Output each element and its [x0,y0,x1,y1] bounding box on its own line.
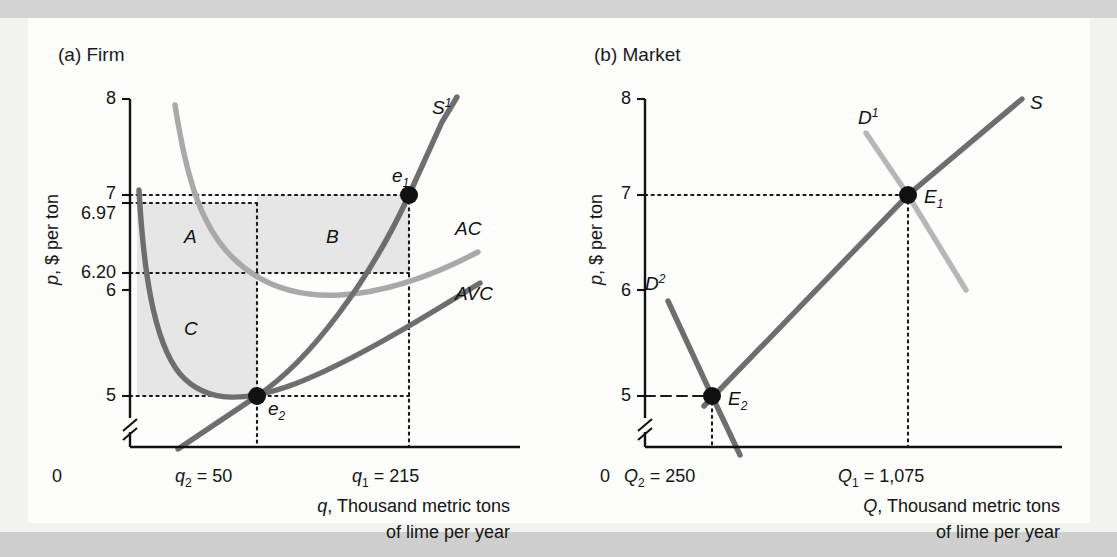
panel-b-xtick-Q1-sub: 1 [852,476,859,490]
panel-a-xtick-q2-rest: = 50 [192,466,233,486]
panel-a-ytick-7: 7 [70,183,116,204]
curve-label-D1: D1 [858,106,878,129]
panel-b-xtick-Q1-var: Q [838,466,852,486]
point-label-E1: E1 [924,186,943,211]
panel-b-x-axis-line2: of lime per year [936,522,1060,542]
panel-b-ytick-6: 6 [585,280,631,301]
point-label-e2: e2 [268,398,285,423]
region-C-label: C [184,318,198,340]
panel-b-xtick-Q2-var: Q [624,466,638,486]
panel-b-xtick-Q2: Q2 = 250 [624,466,695,490]
point-label-e1-var: e [392,165,403,186]
curve-label-S1-sup: 1 [445,96,452,110]
point-label-E2-sub: 2 [741,399,748,413]
panel-b-origin-label: 0 [600,466,610,487]
panel-a-x-axis-var: q [317,496,327,516]
figure-root: (a) Firm p, $ per ton 8 7 6.97 6.20 6 5 … [0,0,1117,557]
region-A-label: A [184,226,197,248]
panel-b-axes [637,99,1062,447]
curve-label-D1-sup: 1 [872,106,879,120]
panel-b-x-axis-var: Q [863,496,877,516]
panel-b-y-axis-label: p, $ per ton [586,194,607,285]
region-B-label: B [326,226,339,248]
point-label-e2-sub: 2 [279,409,286,423]
panel-a-ytick-6: 6 [70,280,116,301]
panel-a-xtick-q2-var: q [175,466,185,486]
point-label-e1: e1 [392,165,409,190]
curve-label-S1: S1 [432,96,451,119]
panel-a-title: (a) Firm [58,44,124,66]
panel-a-x-axis-line2: of lime per year [386,522,510,542]
panel-b-ytick-7: 7 [585,183,631,204]
curve-S [704,99,1022,406]
point-label-E2: E2 [728,388,747,413]
point-label-e2-var: e [268,398,279,419]
point-e2 [248,387,266,405]
curve-label-AC: AC [455,218,481,240]
panel-b-x-axis-line1: , Thousand metric tons [877,496,1060,516]
panel-a-x-axis-title: q, Thousand metric tons of lime per year [240,493,510,545]
panel-b-xtick-Q1-rest: = 1,075 [859,466,925,486]
point-E1 [899,186,917,204]
panel-a-xtick-q1: q1 = 215 [352,466,419,490]
panel-b-y-axis-rest: , $ per ton [586,194,606,275]
panel-a-origin-label: 0 [52,466,62,487]
panel-b-xtick-Q2-sub: 2 [638,476,645,490]
curve-label-D2-var: D [645,273,659,294]
panel-a-ytick-8: 8 [70,88,116,109]
curve-label-D2: D2 [645,272,665,295]
panel-b-xtick-Q2-rest: = 250 [645,466,696,486]
curve-label-D2-sup: 2 [659,272,666,286]
panel-a-xtick-q2-sub: 2 [185,476,192,490]
panel-b-title: (b) Market [594,44,681,66]
panel-a-xtick-q1-var: q [352,466,362,486]
curve-label-S1-var: S [432,97,445,118]
chart-canvas [0,0,1117,557]
point-label-E1-var: E [924,186,937,207]
panel-b-xtick-Q1: Q1 = 1,075 [838,466,924,490]
point-label-E2-var: E [728,388,741,409]
panel-b-x-axis-title: Q, Thousand metric tons of lime per year [790,493,1060,545]
panel-a-xtick-q2: q2 = 50 [175,466,232,490]
panel-a-xtick-q1-rest: = 215 [369,466,420,486]
panel-a-shaded-regions [137,195,409,396]
panel-a-x-axis-line1: , Thousand metric tons [327,496,510,516]
curve-label-S: S [1030,92,1043,114]
curve-label-D1-var: D [858,107,872,128]
panel-b-ytick-5: 5 [585,385,631,406]
panel-a-xtick-q1-sub: 1 [362,476,369,490]
panel-a-ytick-697: 6.97 [48,203,116,224]
curve-label-AVC: AVC [455,283,493,305]
point-E2 [703,387,721,405]
point-label-e1-sub: 1 [403,176,410,190]
panel-a-ytick-5: 5 [70,385,116,406]
panel-b-ytick-8: 8 [585,88,631,109]
point-label-E1-sub: 1 [937,197,944,211]
